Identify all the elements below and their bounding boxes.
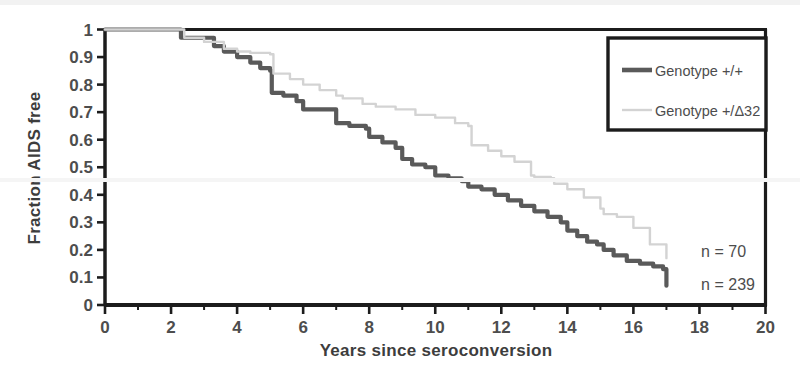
x-tick-label: 18 [690,318,709,337]
x-tick-label: 10 [426,318,445,337]
chart-series-group [105,30,666,286]
x-tick-label: 6 [298,318,307,337]
y-tick-label: 0.6 [69,131,93,150]
y-tick-label: 0.5 [69,158,93,177]
x-tick-label: 0 [100,318,109,337]
x-tick-label: 14 [558,318,577,337]
y-tick-label: 0.8 [69,76,93,95]
y-tick-label: 0.7 [69,103,93,122]
y-axis-title: Fraction AIDS free [25,91,44,244]
y-tick-label: 0.4 [69,186,93,205]
x-tick-label: 16 [624,318,643,337]
legend: Genotype +/+Genotype +/Δ32 [608,38,766,130]
y-axis-tick-labels: 00.10.20.30.40.50.60.70.80.91 [69,21,93,316]
y-tick-label: 0.1 [69,268,93,287]
x-tick-label: 8 [364,318,373,337]
x-axis-title: Years since seroconversion [320,341,553,360]
chart-annotations: n = 70n = 239 [701,243,755,293]
sample-size-annotation: n = 70 [701,243,746,260]
y-tick-label: 0.2 [69,241,93,260]
chart-canvas: 00.10.20.30.40.50.60.70.80.91 0246810121… [0,0,800,383]
legend-label: Genotype +/Δ32 [655,103,760,119]
x-tick-label: 20 [756,318,775,337]
x-axis-tick-labels: 02468101214161820 [100,318,775,337]
chart-figure: 00.10.20.30.40.50.60.70.80.91 0246810121… [0,0,800,383]
legend-label: Genotype +/+ [655,63,743,79]
y-tick-label: 1 [84,21,93,40]
y-tick-label: 0.3 [69,213,93,232]
x-tick-label: 12 [492,318,511,337]
x-tick-label: 2 [166,318,175,337]
x-tick-label: 4 [232,318,242,337]
sample-size-annotation: n = 239 [701,276,755,293]
y-tick-label: 0 [84,296,93,315]
series-line-genotype-plus-plus [105,30,666,286]
y-tick-label: 0.9 [69,48,93,67]
